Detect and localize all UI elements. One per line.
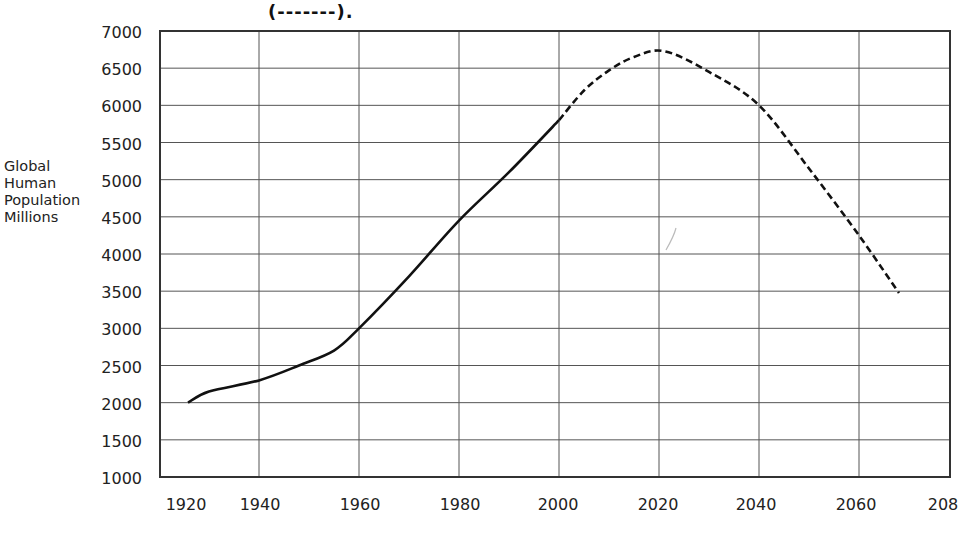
x-tick-label: 208 [928,495,958,514]
historical-population-line [188,120,559,402]
y-tick-label: 7000 [101,23,142,42]
y-tick-label: 4000 [101,246,142,265]
x-tick-label: 2060 [836,495,877,514]
y-tick-label: 3000 [101,320,142,339]
y-tick-label: 6000 [101,97,142,116]
pencil-mark [666,228,676,250]
y-tick-label: 2500 [101,358,142,377]
x-tick-label: 1940 [240,495,281,514]
projected-population-line [559,50,899,293]
x-tick-label: 1920 [166,495,207,514]
y-tick-label: 2000 [101,395,142,414]
x-tick-label: 2020 [638,495,679,514]
x-tick-label: 1980 [440,495,481,514]
y-tick-label: 5000 [101,172,142,191]
y-tick-label: 1500 [101,432,142,451]
y-tick-label: 1000 [101,469,142,488]
data-series [188,50,899,402]
x-tick-label: 2040 [736,495,777,514]
population-line-chart: 7000650060005500500045004000350030002500… [0,0,958,542]
x-tick-label: 1960 [340,495,381,514]
y-tick-label: 4500 [101,209,142,228]
y-tick-label: 6500 [101,60,142,79]
y-tick-label: 3500 [101,283,142,302]
x-tick-label: 2000 [538,495,579,514]
x-axis-ticks: 19201940196019802000202020402060208 [166,495,958,514]
y-tick-label: 5500 [101,135,142,154]
y-axis-ticks: 7000650060005500500045004000350030002500… [101,23,142,488]
chart-grid [160,31,950,477]
